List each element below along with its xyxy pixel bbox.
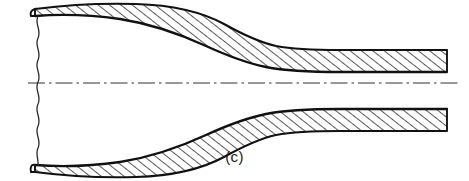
drawing-background <box>0 0 469 181</box>
figure-container: (c) <box>0 0 469 181</box>
upper-wall-left-cap <box>31 9 35 16</box>
tapered-tube-drawing <box>0 0 469 181</box>
lower-wall-left-cap <box>31 165 35 172</box>
